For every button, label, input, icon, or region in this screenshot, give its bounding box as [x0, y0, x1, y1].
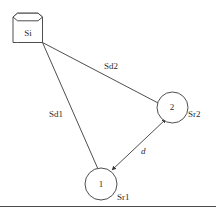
diagram-canvas: Si 1 2 Sr1 Sr2 Sd2 Sd1 d: [0, 0, 216, 214]
node-2-number: 2: [162, 103, 182, 112]
edge-label-sd1: Sd1: [49, 110, 63, 119]
cylinder-si-label: Si: [13, 29, 43, 38]
node-1-label: Sr1: [117, 193, 130, 202]
node-1-number: 1: [91, 180, 111, 189]
cylinder-top: [13, 13, 43, 21]
edge-si-to-node2: [43, 43, 161, 105]
edge-node1-node2-distance: [112, 119, 166, 170]
edge-label-sd2: Sd2: [104, 62, 118, 71]
node-2-label: Sr2: [188, 110, 201, 119]
edge-label-d: d: [141, 147, 146, 156]
edge-si-to-node1: [43, 43, 99, 170]
